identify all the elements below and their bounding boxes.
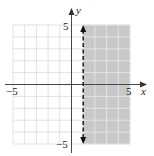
y-axis-arrow-icon	[69, 8, 75, 15]
inequality-graph: −5 5 x 5 −5 y	[0, 0, 154, 156]
y-min-label: −5	[56, 138, 68, 150]
y-axis-label: y	[75, 4, 81, 16]
x-max-label: 5	[126, 85, 132, 97]
y-max-label: 5	[63, 20, 69, 32]
x-axis-label: x	[140, 85, 146, 97]
x-min-label: −5	[6, 85, 18, 97]
